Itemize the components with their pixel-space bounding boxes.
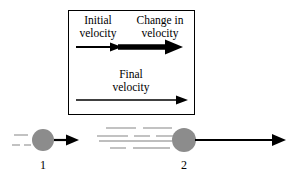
initial-velocity-arrow: [76, 43, 122, 52]
diagram-graphics-layer: [0, 0, 295, 181]
ball-2-velocity-arrow: [195, 134, 286, 146]
ball-2: [172, 128, 196, 152]
ball-1-velocity-arrow: [54, 135, 79, 146]
change-in-velocity-arrow: [118, 40, 183, 55]
ball-1: [32, 129, 54, 151]
ball-1-motion-lines: [12, 135, 31, 145]
ball-2-motion-lines: [97, 128, 174, 148]
final-velocity-arrow: [76, 96, 188, 105]
velocity-diagram: Initial velocity Change in velocity Fina…: [0, 0, 295, 181]
